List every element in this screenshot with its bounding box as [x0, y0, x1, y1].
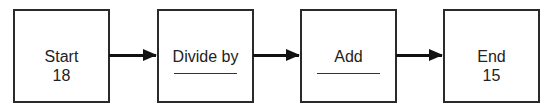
arrowhead-icon: [143, 49, 157, 61]
start-box: Start 18: [13, 9, 110, 103]
arrow-right-icon: [253, 54, 299, 57]
add-title: Add: [302, 48, 395, 66]
end-box: End 15: [443, 9, 540, 103]
arrowhead-icon: [429, 49, 443, 61]
divide-by-box: Divide by: [157, 9, 254, 103]
divide-by-title: Divide by: [159, 48, 252, 66]
divide-by-blank-line: [174, 73, 237, 74]
arrowhead-icon: [286, 49, 300, 61]
start-title: Start: [15, 48, 108, 66]
end-title: End: [445, 48, 538, 66]
end-value: 15: [445, 67, 538, 85]
arrow-right-icon: [109, 54, 156, 57]
add-blank-line: [317, 73, 380, 74]
start-value: 18: [15, 67, 108, 85]
add-box: Add: [300, 9, 397, 103]
arrow-right-icon: [396, 54, 442, 57]
